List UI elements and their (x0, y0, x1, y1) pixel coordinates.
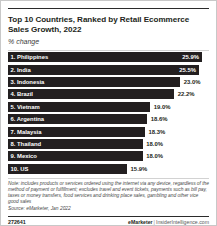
brand-attribution: eMarketer|InsiderIntelligence.com (128, 219, 209, 225)
bar: 4. Brazil (8, 89, 174, 99)
bar-row: 10. US15.9% (8, 164, 209, 174)
bar: 1. Philippines25.9% (8, 52, 202, 62)
bar-value-label: 22.2% (178, 91, 195, 97)
bar: 6. Argentina (8, 114, 147, 124)
bar-list: 1. Philippines25.9%2. India25.5%3. Indon… (8, 52, 209, 176)
top-accent-rule (8, 8, 209, 9)
bar-value-label: 18.6% (151, 116, 168, 122)
chart-source: Source: eMarketer, Jan 2022 (8, 206, 209, 212)
bar-value-label: 18.0% (146, 141, 163, 147)
chart-note: Note: includes products or services orde… (8, 181, 209, 205)
bar-row: 5. Vietnam19.0% (8, 102, 209, 112)
chart-title: Top 10 Countries, Ranked by Retail Ecomm… (8, 15, 209, 35)
bar-row: 1. Philippines25.9% (8, 52, 209, 62)
bar-category-label: 6. Argentina (11, 116, 45, 122)
bar-row: 9. Mexico18.0% (8, 151, 209, 161)
bar-category-label: 4. Brazil (11, 91, 33, 97)
note-divider (8, 178, 209, 179)
bar-row: 2. India25.5% (8, 65, 209, 75)
bar-row: 7. Malaysia18.3% (8, 127, 209, 137)
bar: 10. US (8, 164, 127, 174)
bar: 8. Thailand (8, 139, 143, 149)
bar-category-label: 3. Indonesia (11, 79, 45, 85)
bar-category-label: 9. Mexico (11, 153, 37, 159)
bar-value-label: 15.9% (131, 166, 148, 172)
bar-row: 4. Brazil22.2% (8, 89, 209, 99)
bar: 9. Mexico (8, 151, 143, 161)
bar-value-label: 23.0% (184, 79, 201, 85)
footer-divider (8, 216, 209, 217)
bar: 3. Indonesia (8, 77, 180, 87)
bar-category-label: 5. Vietnam (11, 104, 40, 110)
bar-value-label: 25.9% (182, 54, 199, 60)
bar-value-label: 25.5% (179, 67, 196, 73)
bar-category-label: 7. Malaysia (11, 129, 42, 135)
chart-subtitle: % change (8, 37, 209, 46)
footer: 272641 eMarketer|InsiderIntelligence.com (8, 219, 209, 225)
title-divider (8, 50, 209, 51)
bar-category-label: 1. Philippines (11, 54, 49, 60)
brand-name: eMarketer (128, 219, 153, 225)
bar-row: 6. Argentina18.6% (8, 114, 209, 124)
bar-row: 3. Indonesia23.0% (8, 77, 209, 87)
bar-value-label: 18.3% (149, 129, 166, 135)
bar-value-label: 19.0% (154, 104, 171, 110)
chart-card: Top 10 Countries, Ranked by Retail Ecomm… (0, 0, 217, 226)
brand-site[interactable]: InsiderIntelligence.com (156, 219, 209, 225)
bar-row: 8. Thailand18.0% (8, 139, 209, 149)
bar-category-label: 2. India (11, 67, 31, 73)
chart-id: 272641 (8, 219, 26, 225)
bar: 2. India25.5% (8, 65, 199, 75)
bar-category-label: 10. US (11, 166, 29, 172)
bar: 7. Malaysia (8, 127, 145, 137)
bar-value-label: 18.0% (146, 153, 163, 159)
bar: 5. Vietnam (8, 102, 150, 112)
bar-category-label: 8. Thailand (11, 141, 42, 147)
